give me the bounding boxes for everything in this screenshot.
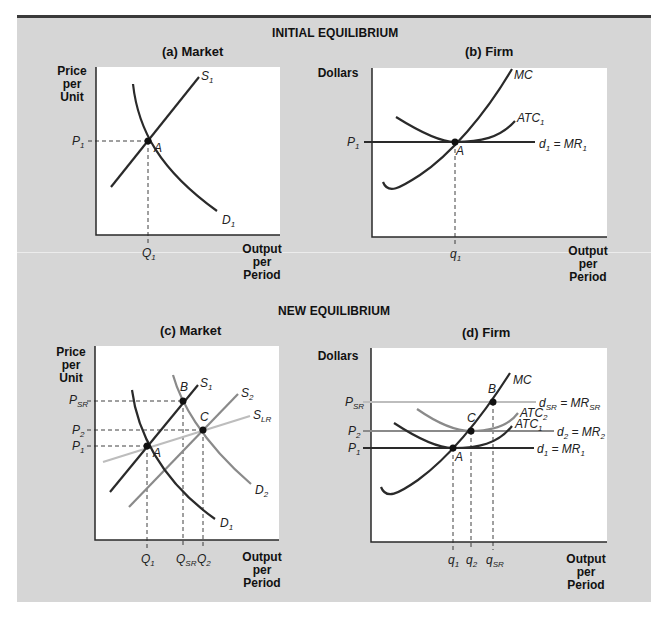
plot-area-c — [95, 346, 279, 540]
point-b — [180, 398, 187, 405]
label-q1: q1 — [450, 247, 461, 263]
charts-svg: A S1 D1 P1 Q1 A MC ATC1 d1 = MR1 P1 q1 — [0, 0, 664, 617]
chart-b: A MC ATC1 d1 = MR1 P1 q1 — [347, 68, 607, 263]
point-b — [490, 399, 497, 406]
chart-a: A S1 D1 P1 Q1 — [72, 67, 280, 262]
label-q2: q2 — [466, 553, 478, 569]
label-q1: Q1 — [142, 246, 156, 262]
plot-area-b — [372, 68, 607, 237]
label-c: C — [467, 411, 476, 425]
label-p1: P1 — [348, 441, 360, 457]
point-a — [145, 138, 152, 145]
label-c: C — [200, 410, 209, 424]
label-a: A — [455, 144, 464, 158]
label-p1: P1 — [72, 439, 84, 455]
label-q1: q1 — [448, 553, 459, 569]
label-b: B — [180, 380, 188, 394]
point-c — [468, 428, 475, 435]
label-a: A — [153, 141, 162, 155]
label-p1: P1 — [347, 135, 359, 151]
label-qsr: qSR — [486, 553, 504, 569]
label-p1: P1 — [72, 134, 84, 150]
label-psr: PSR — [345, 395, 364, 411]
chart-d: A B C MC dSR = MRSR ATC2 ATC1 d2 = MR2 d… — [345, 348, 607, 569]
label-psr: PSR — [69, 393, 88, 409]
label-mc: MC — [514, 68, 533, 82]
label-q1: Q1 — [141, 552, 155, 568]
label-a: A — [152, 446, 161, 460]
point-c — [200, 427, 207, 434]
label-mc: MC — [513, 373, 532, 387]
label-p2: P2 — [72, 423, 85, 439]
label-q2: Q2 — [197, 552, 211, 568]
label-a: A — [454, 450, 463, 464]
label-qsr: QSR — [176, 552, 197, 568]
chart-c: A B C S1 S2 SLR D2 D1 PSR P2 P1 Q1 QSR Q… — [69, 346, 279, 568]
label-p2: P2 — [348, 424, 361, 440]
label-b: B — [488, 382, 496, 396]
point-a — [144, 443, 151, 450]
